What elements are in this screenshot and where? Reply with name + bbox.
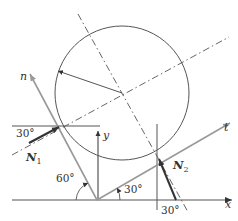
label-angle-incline: 60°: [56, 172, 75, 184]
diagram-canvas: n t x y 30° 60° 30° 30° N1 N2: [0, 0, 238, 221]
angle-arc-30-t: [117, 188, 120, 200]
label-angle-n2: 30°: [161, 204, 180, 216]
label-n-axis: n: [20, 70, 27, 83]
label-force-n1: N1: [25, 150, 42, 166]
label-y-axis: y: [102, 129, 110, 142]
label-t-axis: t: [224, 121, 229, 134]
label-angle-t: 30°: [124, 183, 143, 195]
label-angle-n1: 30°: [16, 127, 35, 139]
label-x-axis: x: [225, 198, 232, 211]
angle-arc-60: [76, 183, 88, 200]
normal-line-1: [12, 37, 229, 155]
label-force-n2: N2: [172, 158, 189, 174]
radius-arrow: [58, 71, 122, 93]
